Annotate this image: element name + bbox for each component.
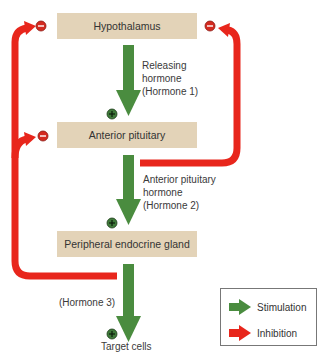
hormone1-line2: hormone <box>142 72 198 85</box>
stimulation-arrow-3 <box>116 264 141 342</box>
hormone1-line1: Releasing <box>142 59 198 72</box>
node-anterior-pituitary-label: Anterior pituitary <box>89 129 165 141</box>
hormone2-label: Anterior pituitary hormone (Hormone 2) <box>143 173 216 212</box>
plus-badge-target-cells <box>107 329 117 339</box>
minus-badge-hypothalamus-left <box>36 21 46 31</box>
stimulation-arrow-2 <box>116 155 141 225</box>
node-hypothalamus: Hypothalamus <box>57 13 197 39</box>
stimulation-arrow-1 <box>116 45 141 116</box>
legend-inhibition: Inhibition <box>229 325 297 341</box>
plus-badge-anterior-pituitary <box>107 109 117 119</box>
hormone2-line3: (Hormone 2) <box>143 199 216 212</box>
inhibition-arrow-icon <box>229 325 251 341</box>
node-target-cells: Target cells <box>101 340 152 353</box>
node-anterior-pituitary: Anterior pituitary <box>57 122 197 148</box>
stimulation-arrow-icon <box>229 299 251 315</box>
node-hypothalamus-label: Hypothalamus <box>93 20 160 32</box>
legend-stimulation: Stimulation <box>229 299 306 315</box>
hormone1-label: Releasing hormone (Hormone 1) <box>142 59 198 98</box>
hormone2-line1: Anterior pituitary <box>143 173 216 186</box>
legend-stimulation-label: Stimulation <box>257 302 306 313</box>
node-peripheral-gland-label: Peripheral endocrine gland <box>64 238 190 250</box>
hormone1-line3: (Hormone 1) <box>142 85 198 98</box>
legend: Stimulation Inhibition <box>220 288 317 346</box>
minus-badge-anterior-pituitary <box>38 131 48 141</box>
minus-badge-hypothalamus-right <box>205 21 215 31</box>
node-peripheral-gland: Peripheral endocrine gland <box>57 231 197 257</box>
hormone2-line2: hormone <box>143 186 216 199</box>
legend-inhibition-label: Inhibition <box>257 328 297 339</box>
plus-badge-peripheral-gland <box>107 218 117 228</box>
hormone3-label: (Hormone 3) <box>59 296 115 309</box>
